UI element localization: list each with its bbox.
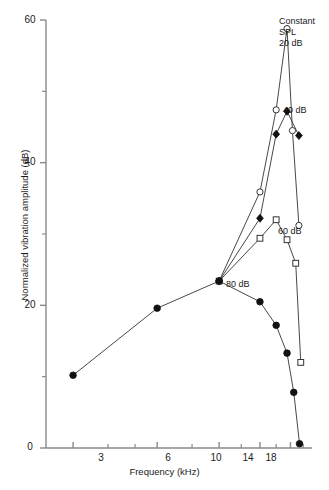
data-point-open-circle <box>289 127 295 133</box>
series-open-square <box>216 217 303 365</box>
annotation-60db: 60 dB <box>278 226 302 237</box>
x-axis-title: Frequency (kHz) <box>0 466 329 477</box>
data-point-open-square <box>293 260 299 266</box>
data-series-layer <box>70 25 304 447</box>
data-point-open-circle <box>257 189 263 195</box>
data-point-filled-diamond <box>257 214 264 222</box>
data-point-open-square <box>273 217 279 223</box>
y-tick-label-0: 0 <box>18 441 42 452</box>
x-tick-label-14: 14 <box>237 452 259 463</box>
x-tick-label-10: 10 <box>205 452 227 463</box>
data-point-filled-circle <box>284 350 291 357</box>
annotation-constant-spl: Constant SPL 20 dB <box>279 16 315 49</box>
x-tick-label-6: 6 <box>157 452 179 463</box>
y-tick-group <box>40 20 46 448</box>
x-tick-label-3: 3 <box>90 452 112 463</box>
data-point-filled-diamond <box>273 130 280 138</box>
series-filled-diamond <box>216 107 303 285</box>
series-line <box>219 29 299 282</box>
y-axis-title: Normalized vibration amplitude (dB) <box>19 161 30 301</box>
y-tick-label-60: 60 <box>18 14 42 25</box>
annotation-40db: 40 dB <box>283 105 307 116</box>
data-point-open-circle <box>273 107 279 113</box>
series-filled-circle <box>70 278 303 447</box>
data-point-filled-circle <box>257 298 264 305</box>
data-point-open-square <box>257 235 263 241</box>
data-point-filled-circle <box>216 278 223 285</box>
data-point-filled-circle <box>290 389 297 396</box>
chart-figure: Normalized vibration amplitude (dB) Freq… <box>0 0 329 490</box>
annotation-80db: 80 dB <box>226 279 250 290</box>
plot-canvas <box>0 0 329 490</box>
axes-group <box>46 20 312 448</box>
series-line <box>73 281 299 444</box>
data-point-open-square <box>298 360 304 366</box>
data-point-filled-circle <box>154 305 161 312</box>
y-tick-label-20: 20 <box>18 299 42 310</box>
x-tick-label-18: 18 <box>260 452 282 463</box>
data-point-filled-circle <box>273 322 280 329</box>
data-point-filled-circle <box>296 440 303 447</box>
x-tick-group <box>73 442 303 448</box>
data-point-open-square <box>284 237 290 243</box>
data-point-filled-circle <box>70 372 77 379</box>
y-tick-label-40: 40 <box>18 156 42 167</box>
data-point-filled-diamond <box>296 132 303 140</box>
